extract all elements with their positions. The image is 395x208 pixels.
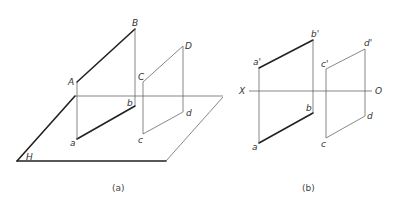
label-a: a (70, 138, 76, 148)
axis-label-O: O (375, 86, 382, 96)
label-c-prime: c' (321, 59, 328, 69)
projection-diagram: A B C D a b c d H (a) X O a' b' c' d' a … (0, 0, 395, 208)
axis-label-X: X (238, 86, 246, 96)
label-d: d (186, 108, 192, 118)
label-c: c (138, 135, 143, 145)
segment-ab-plan (259, 113, 313, 143)
segment-cd-plan (326, 116, 365, 138)
label-B: B (132, 18, 138, 28)
segment-c-prime-d-prime (326, 49, 365, 69)
segment-ab (77, 106, 135, 139)
caption-a: (a) (112, 183, 125, 193)
label-d-plan: d (367, 111, 373, 121)
label-c-plan: c (321, 139, 326, 149)
label-A: A (67, 77, 74, 87)
segment-cd (143, 112, 183, 134)
label-b-prime: b' (311, 29, 319, 39)
label-b: b (127, 98, 133, 108)
label-H: H (26, 152, 33, 162)
label-d-prime: d' (364, 38, 372, 48)
label-a-plan: a (252, 142, 258, 152)
segment-CD (143, 46, 183, 82)
label-a-prime: a' (253, 57, 261, 67)
label-D: D (185, 41, 192, 51)
label-C: C (138, 72, 145, 82)
label-b-plan: b (306, 103, 312, 113)
figure-b: X O a' b' c' d' a b c d (b) (238, 29, 382, 193)
segment-AB (77, 29, 135, 82)
segment-a-prime-b-prime (259, 40, 313, 68)
figure-a: A B C D a b c d H (a) (17, 18, 223, 193)
plane-h-right-edge (166, 97, 223, 161)
caption-b: (b) (302, 183, 315, 193)
